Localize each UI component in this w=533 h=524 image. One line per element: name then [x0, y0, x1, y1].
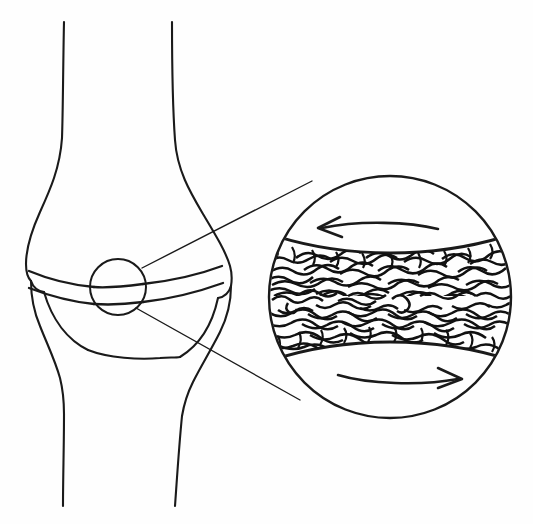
figure-background	[0, 0, 533, 524]
joint-lubrication-figure: Joint lubrication diagram Line drawing o…	[0, 0, 533, 524]
diagram-canvas	[0, 0, 533, 524]
